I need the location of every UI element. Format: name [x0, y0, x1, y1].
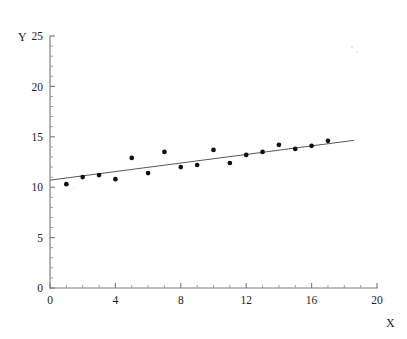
data-point-17: [326, 138, 331, 143]
x-axis-title: X: [386, 316, 395, 330]
data-points: [64, 138, 330, 186]
x-tick-label-0: 0: [47, 294, 53, 306]
y-tick-label-25: 25: [32, 30, 44, 42]
x-tick-label-16: 16: [306, 294, 318, 306]
x-tick-label-20: 20: [371, 294, 383, 306]
y-tick-label-15: 15: [32, 131, 44, 143]
data-point-14: [277, 143, 282, 148]
data-point-9: [195, 163, 200, 168]
data-point-13: [260, 150, 265, 155]
data-point-2: [80, 175, 85, 180]
y-axis-title: Y: [18, 30, 27, 44]
y-tick-label-0: 0: [37, 282, 43, 294]
data-point-12: [244, 153, 249, 158]
figure-container: 0481216200510152025XY: [0, 0, 407, 339]
data-point-8: [178, 165, 183, 170]
data-point-7: [162, 150, 167, 155]
data-point-11: [228, 161, 233, 166]
y-tick-label-20: 20: [32, 81, 44, 93]
data-point-15: [293, 147, 298, 152]
axes: [50, 36, 377, 288]
data-point-5: [129, 156, 134, 161]
x-tick-label-8: 8: [178, 294, 184, 306]
scatter-plot: 0481216200510152025XY: [0, 0, 407, 339]
y-tick-label-5: 5: [37, 232, 43, 244]
data-point-1: [64, 182, 69, 187]
fitted-line-path: [50, 140, 354, 180]
y-tick-label-10: 10: [32, 181, 44, 193]
scanner-speckles: [73, 46, 358, 189]
x-tick-label-4: 4: [113, 294, 119, 306]
x-tick-label-12: 12: [240, 294, 252, 306]
data-point-3: [97, 173, 102, 178]
data-point-16: [309, 144, 314, 149]
data-point-6: [146, 171, 151, 176]
regression-line: [50, 140, 354, 180]
data-point-10: [211, 148, 216, 153]
axis-labels: 0481216200510152025XY: [18, 30, 395, 330]
data-point-4: [113, 177, 118, 182]
